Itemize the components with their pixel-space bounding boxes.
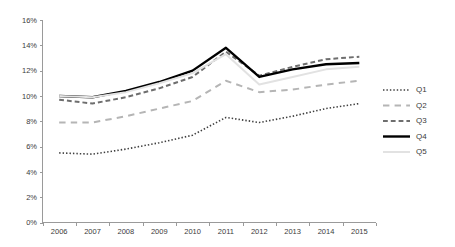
y-tick-label: 6% <box>26 142 37 151</box>
x-axis-labels: 2006200720082009201020112012201320142015 <box>51 227 368 236</box>
x-axis-ticks <box>44 223 377 227</box>
legend-label-q3: Q3 <box>416 116 427 125</box>
x-tick-label: 2010 <box>184 227 201 236</box>
y-axis-labels: 0%2%4%6%8%10%12%14%16% <box>22 16 37 228</box>
x-tick-label: 2007 <box>84 227 101 236</box>
series-line-q2 <box>59 81 359 123</box>
x-tick-label: 2009 <box>151 227 168 236</box>
y-tick-label: 2% <box>26 193 37 202</box>
x-tick-label: 2008 <box>118 227 135 236</box>
x-tick-label: 2006 <box>51 227 68 236</box>
legend-label-q5: Q5 <box>416 147 427 156</box>
series-line-q1 <box>59 104 359 155</box>
x-tick-label: 2015 <box>351 227 368 236</box>
legend-label-q1: Q1 <box>416 85 427 94</box>
line-chart: 0%2%4%6%8%10%12%14%16% 20062007200820092… <box>0 0 455 247</box>
x-tick-label: 2011 <box>218 227 234 236</box>
x-tick-label: 2012 <box>251 227 268 236</box>
legend-label-q2: Q2 <box>416 101 427 110</box>
chart-canvas: 0%2%4%6%8%10%12%14%16% 20062007200820092… <box>0 0 455 247</box>
y-tick-label: 14% <box>22 41 37 50</box>
y-tick-label: 8% <box>26 117 37 126</box>
y-tick-label: 16% <box>22 16 37 25</box>
axis-lines <box>43 20 377 223</box>
y-tick-label: 4% <box>26 168 37 177</box>
x-tick-label: 2014 <box>318 227 335 236</box>
series-group <box>59 48 359 154</box>
y-tick-label: 10% <box>22 92 37 101</box>
legend: Q1Q2Q3Q4Q5 <box>383 85 427 156</box>
y-tick-label: 0% <box>26 218 37 227</box>
y-tick-label: 12% <box>22 66 37 75</box>
x-tick-label: 2013 <box>284 227 301 236</box>
legend-label-q4: Q4 <box>416 132 427 141</box>
